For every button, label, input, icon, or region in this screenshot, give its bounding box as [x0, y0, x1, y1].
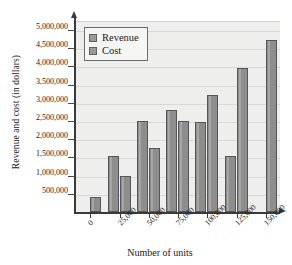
y-axis-arrow-icon [71, 11, 77, 18]
y-axis-tick-label: 5,000,000 [16, 23, 68, 31]
y-axis-tick-label: 1,000,000 [16, 169, 68, 177]
y-axis-tick-mark [68, 85, 75, 86]
y-axis-tick-mark [68, 121, 75, 122]
legend-item-cost: Cost [89, 44, 139, 57]
bar-revenue-125000 [225, 156, 236, 212]
bar-cost-125000 [237, 68, 248, 212]
x-axis-title: Number of units [60, 247, 260, 258]
x-axis-tick-mark [90, 212, 91, 218]
legend-item-revenue: Revenue [89, 31, 139, 44]
y-axis-tick-mark [68, 30, 75, 31]
y-axis-tick-label: 2,000,000 [16, 132, 68, 140]
bar-revenue-50000 [137, 121, 148, 212]
bar-cost-100000 [207, 95, 218, 212]
bar-revenue-25000 [108, 156, 119, 212]
y-axis-tick-mark [68, 48, 75, 49]
bar-revenue-75000 [166, 110, 177, 212]
y-axis-tick-label: 500,000 [16, 187, 68, 195]
y-axis-tick-mark [68, 139, 75, 140]
y-axis-tick-labels: 500,0001,000,0001,500,0002,000,0002,500,… [16, 18, 68, 208]
legend-label: Revenue [102, 32, 139, 43]
y-axis-tick-label: 4,500,000 [16, 41, 68, 49]
y-axis-tick-mark [68, 103, 75, 104]
y-axis-tick-label: 1,500,000 [16, 150, 68, 158]
legend-swatch-icon [89, 47, 97, 55]
chart-legend: Revenue Cost [84, 27, 148, 61]
bar-chart: Revenue and cost (in dollars) 500,0001,0… [0, 0, 292, 265]
bar-cost-50000 [149, 148, 160, 212]
y-axis-tick-label: 2,500,000 [16, 114, 68, 122]
y-axis-tick-label: 3,000,000 [16, 96, 68, 104]
y-axis-tick-mark [68, 176, 75, 177]
bar-cost-150000 [266, 40, 277, 212]
bar-cost-0 [90, 197, 101, 212]
legend-label: Cost [102, 45, 121, 56]
y-axis-tick-label: 4,000,000 [16, 59, 68, 67]
bar-revenue-100000 [195, 122, 206, 212]
y-axis-tick-mark [68, 194, 75, 195]
y-axis-tick-mark [68, 66, 75, 67]
y-axis-line [74, 17, 76, 213]
y-axis-tick-label: 3,500,000 [16, 78, 68, 86]
bar-cost-75000 [178, 121, 189, 212]
x-axis-tick-label: 0 [86, 218, 95, 227]
y-axis-tick-mark [68, 157, 75, 158]
legend-swatch-icon [89, 34, 97, 42]
